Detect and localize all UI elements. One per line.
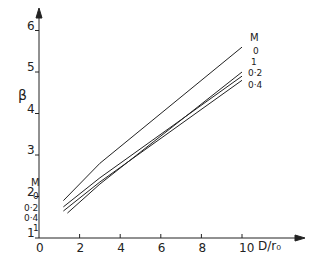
x-tick-label: 0	[36, 241, 44, 255]
series-label: 0·4	[24, 213, 39, 223]
svg-text:M: M	[31, 177, 40, 188]
x-tick-label: 10	[239, 241, 254, 255]
chart: 1234560246810M00·20·41M010·20·4 β D/r₀	[0, 0, 312, 267]
y-tick-label: 5	[27, 60, 35, 74]
series-label: 0·2	[248, 68, 262, 78]
series-label: 0·2	[24, 203, 38, 213]
series-line	[63, 76, 242, 207]
y-axis-label: β	[18, 87, 27, 103]
svg-text:M: M	[250, 32, 259, 43]
x-tick-label: 6	[158, 241, 166, 255]
series-label: 0·4	[248, 80, 263, 90]
series-label: 1	[251, 57, 257, 67]
series-label: 1	[33, 223, 39, 233]
y-tick-label: 3	[27, 143, 35, 157]
x-tick-label: 2	[77, 241, 85, 255]
series-line	[63, 47, 242, 201]
series-label: 0	[253, 46, 259, 56]
series-label: 0	[33, 191, 39, 201]
x-tick-label: 4	[117, 241, 125, 255]
line-chart: 1234560246810M00·20·41M010·20·4 β D/r₀	[0, 0, 312, 267]
y-tick-label: 6	[27, 19, 35, 33]
y-tick-label: 4	[27, 102, 35, 116]
x-tick-label: 8	[198, 241, 206, 255]
x-axis-label: D/r₀	[258, 239, 281, 253]
series-line	[63, 80, 242, 211]
